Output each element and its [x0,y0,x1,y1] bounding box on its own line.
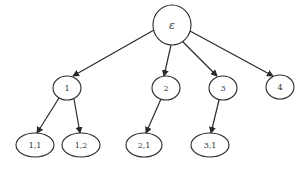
node-label: 3 [220,84,225,93]
tree-node: 3,1 [191,133,229,157]
node-label: 1,2 [75,141,88,150]
root-node: ε [153,5,191,45]
edge-arrow-n2-to-n21 [146,99,161,133]
nodes-group: ε12341,11,22,13,1 [16,5,294,157]
edge-arrow-n1-to-n12 [74,99,80,133]
edge-arrow-eps-to-n3 [182,41,217,76]
tree-node: 4 [266,75,294,99]
node-label: 1,1 [29,141,42,150]
tree-node: 1,1 [16,133,54,157]
node-label: 2 [163,84,168,93]
node-label: 3,1 [204,141,217,150]
tree-node: 2 [152,76,180,100]
node-label: 1 [64,84,69,93]
tree-node: 2,1 [126,133,162,157]
edge-arrow-n3-to-n31 [211,100,219,133]
edge-arrow-eps-to-n1 [73,30,154,76]
tree-diagram: ε12341,11,22,13,1 [0,0,307,169]
edge-arrow-eps-to-n2 [164,45,171,76]
node-label: 4 [277,83,282,92]
tree-node: 1,2 [62,133,100,157]
edge-arrow-n1-to-n11 [37,98,59,133]
node-label: 2,1 [138,141,151,150]
tree-node: 1 [53,76,81,100]
node-label: ε [169,19,175,32]
tree-node: 3 [209,76,237,100]
edge-arrow-eps-to-n4 [190,31,273,76]
